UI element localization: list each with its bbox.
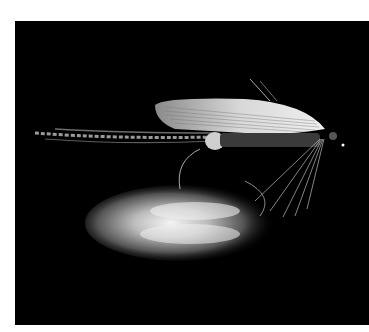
tail-feather: [35, 129, 215, 143]
spoon-reflection: [85, 185, 275, 261]
wing: [155, 79, 325, 134]
fly-illustration: [15, 21, 369, 325]
fly-photo: Fishing fly with pale feather wing, spec…: [15, 21, 369, 325]
hook: [179, 149, 200, 189]
